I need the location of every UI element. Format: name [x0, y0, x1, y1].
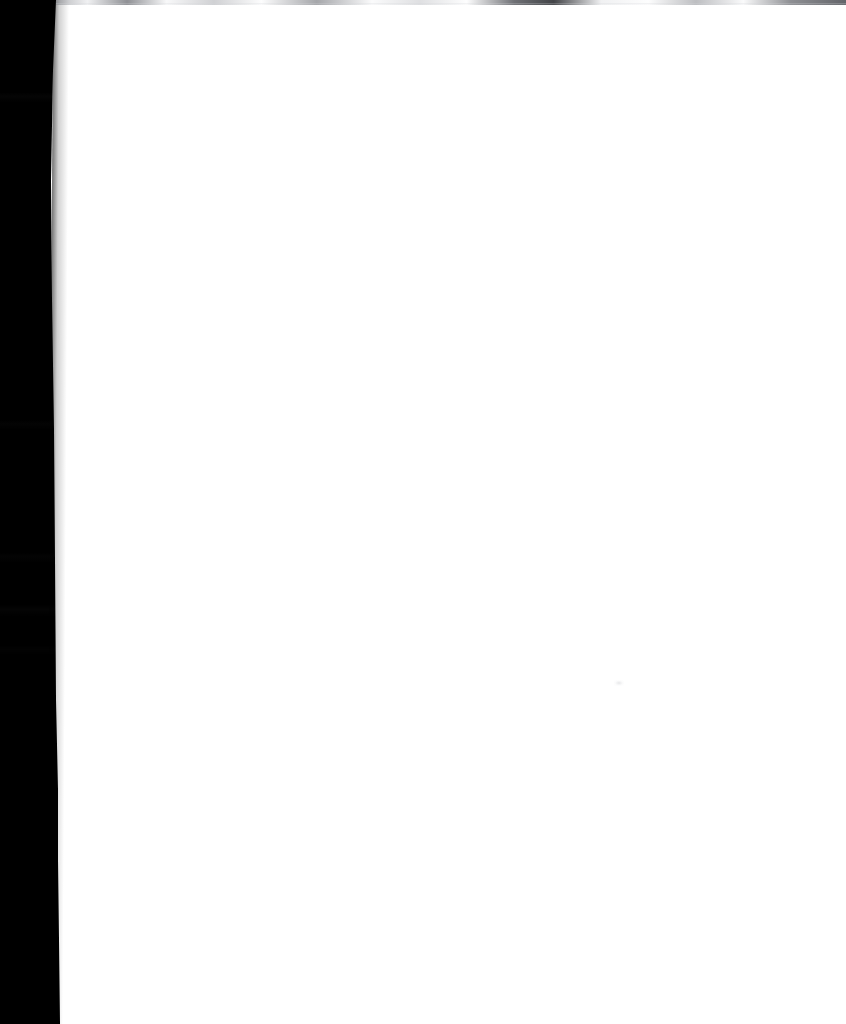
paper-sheet: [0, 0, 846, 1024]
scanned-page-canvas: [0, 0, 846, 1024]
